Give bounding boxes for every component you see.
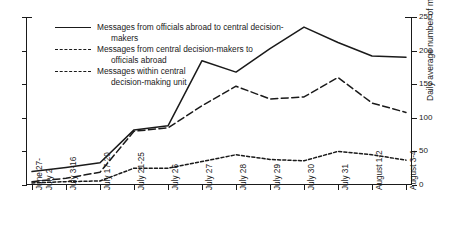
legend-label-0-line1: Messages from officials abroad to centra…: [97, 22, 284, 32]
y-tick-label-50: 50: [419, 147, 428, 155]
x-tick-6: [236, 185, 237, 190]
x-tick-label-11: August 3-4: [409, 150, 419, 190]
x-tick-label-6: July 28: [239, 164, 249, 190]
y-tick-right-250: [412, 17, 417, 18]
legend-label-1-line1: Messages from central decision-makers to: [97, 44, 253, 54]
y-tick-label-0: 0: [419, 181, 423, 189]
x-tick-1: [66, 185, 67, 190]
y-tick-label-100: 100: [419, 114, 432, 122]
legend-line-dotted-icon: [55, 71, 91, 72]
x-tick-label-0: June 27-July 2: [35, 158, 54, 190]
y-tick-left-150: [22, 84, 27, 85]
x-tick-label-1: July 3-16: [69, 157, 79, 190]
legend-label-2: Messages within central decision-making …: [97, 66, 284, 87]
x-tick-label-2: July 17-20: [103, 152, 113, 190]
legend-label-2-line2: decision-making unit: [97, 77, 284, 88]
x-tick-label-9: July 31: [341, 164, 351, 190]
chart-legend: Messages from officials abroad to centra…: [55, 22, 284, 88]
x-axis: [26, 184, 412, 185]
x-tick-label-7: July 29: [273, 164, 283, 190]
chart-figure: 050100150200250 June 27-July 2July 3-16J…: [0, 0, 454, 245]
legend-label-1: Messages from central decision-makers to…: [97, 44, 284, 65]
plot-border-top-right: [405, 17, 412, 18]
y-tick-right-200: [412, 51, 417, 52]
legend-label-0-line2: makers: [97, 33, 284, 44]
x-tick-8: [304, 185, 305, 190]
x-tick-10: [372, 185, 373, 190]
x-tick-9: [338, 185, 339, 190]
x-tick-2: [100, 185, 101, 190]
x-tick-label-5: July 27: [205, 164, 215, 190]
y-tick-left-0: [22, 185, 27, 186]
y-tick-right-150: [412, 84, 417, 85]
legend-label-2-line1: Messages within central: [97, 66, 186, 76]
x-tick-3: [134, 185, 135, 190]
x-tick-label-3: July 21-25: [137, 152, 147, 190]
x-tick-7: [270, 185, 271, 190]
y-tick-left-100: [22, 118, 27, 119]
x-tick-0: [32, 185, 33, 190]
x-tick-5: [202, 185, 203, 190]
legend-entry-0: Messages from officials abroad to centra…: [55, 22, 284, 43]
y-axis-left: [26, 17, 27, 185]
legend-line-solid-icon: [55, 27, 91, 28]
legend-label-0: Messages from officials abroad to centra…: [97, 22, 284, 43]
legend-entry-2: Messages within central decision-making …: [55, 66, 284, 87]
x-tick-label-4: July 26: [171, 164, 181, 190]
legend-entry-1: Messages from central decision-makers to…: [55, 44, 284, 65]
y-tick-left-250: [22, 17, 27, 18]
legend-line-dashed-icon: [55, 49, 91, 50]
x-tick-label-8: July 30: [307, 164, 317, 190]
y-tick-right-100: [412, 118, 417, 119]
x-tick-11: [406, 185, 407, 190]
y-tick-left-50: [22, 151, 27, 152]
x-tick-4: [168, 185, 169, 190]
x-tick-label-10: August 1-2: [375, 150, 385, 190]
y-tick-left-200: [22, 51, 27, 52]
y-axis-title: Daily average number of messages: [425, 0, 435, 101]
legend-label-1-line2: officials abroad: [97, 55, 284, 66]
